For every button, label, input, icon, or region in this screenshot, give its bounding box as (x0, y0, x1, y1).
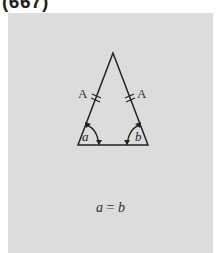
equation-operator: = (107, 200, 115, 215)
angle-a-label: a (82, 129, 89, 145)
right-side-label: A (137, 86, 146, 102)
equation-right: b (118, 200, 125, 215)
left-side-label: A (78, 86, 87, 102)
equation: a = b (0, 200, 221, 216)
angle-b-label: b (135, 129, 142, 145)
equation-left: a (96, 200, 103, 215)
